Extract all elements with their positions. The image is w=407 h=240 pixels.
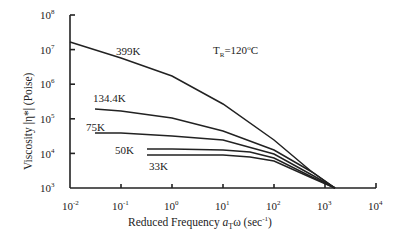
y-axis-title: Viscosity |η*| (Poise) — [22, 72, 35, 170]
x-tick-label: 103 — [317, 199, 332, 212]
x-axis-title: Reduced Frequency aTω (sec-1) — [128, 215, 272, 231]
x-tick-label: 101 — [215, 199, 230, 212]
curves — [70, 42, 335, 188]
y-tick-label: 107 — [40, 43, 55, 56]
x-tick-label: 102 — [266, 199, 281, 212]
y-tick-label: 104 — [40, 147, 55, 160]
x-tick-label: 100 — [164, 199, 179, 212]
x-tick-label: 10-1 — [112, 199, 129, 212]
series-label-399K: 399K — [116, 45, 141, 57]
x-tick-label: 10-2 — [62, 199, 79, 212]
series-labels: 399K 134.4K 75K 50K 33K — [86, 45, 168, 172]
y-tick-label: 103 — [40, 181, 55, 194]
x-tick-label: 104 — [368, 199, 383, 212]
series-label-33K: 33K — [149, 160, 168, 172]
y-tick-label: 106 — [40, 77, 55, 90]
y-tick-labels: 108 107 106 105 104 103 — [40, 8, 55, 194]
x-tick-labels: 10-2 10-1 100 101 102 103 104 — [62, 199, 383, 212]
series-label-134-4K: 134.4K — [93, 92, 126, 104]
series-label-75K: 75K — [86, 121, 105, 133]
y-tick-label: 108 — [40, 8, 55, 21]
viscosity-chart: 108 107 106 105 104 103 10-2 10-1 100 10… — [0, 0, 407, 240]
series-label-50K: 50K — [115, 144, 134, 156]
y-tick-label: 105 — [40, 112, 55, 125]
reference-temperature-label: TR=120oC — [213, 44, 258, 59]
